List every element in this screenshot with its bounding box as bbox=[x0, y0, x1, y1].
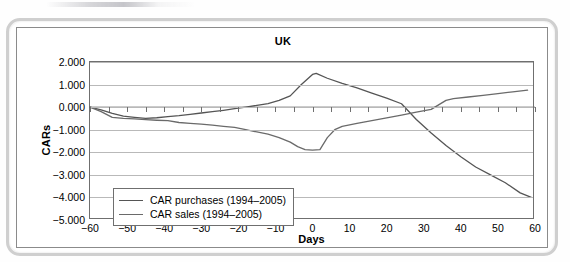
axis-tick bbox=[498, 107, 499, 112]
axis-tick bbox=[294, 107, 295, 112]
axis-tick bbox=[350, 107, 351, 112]
axis-tick bbox=[275, 107, 276, 112]
axis-tick bbox=[516, 107, 517, 112]
x-axis-title: Days bbox=[89, 233, 534, 245]
axis-tick bbox=[146, 107, 147, 112]
gridline bbox=[90, 107, 533, 108]
chart-title: UK bbox=[17, 35, 549, 47]
axis-tick bbox=[164, 107, 165, 112]
x-tick-label: 30 bbox=[418, 222, 430, 234]
axis-tick bbox=[535, 107, 536, 112]
axis-tick bbox=[183, 107, 184, 112]
x-tick-label: 40 bbox=[455, 222, 467, 234]
axis-tick bbox=[238, 107, 239, 112]
chart-legend: CAR purchases (1994–2005) CAR sales (199… bbox=[113, 188, 294, 226]
series-line-car-sales bbox=[90, 90, 528, 150]
axis-tick bbox=[201, 107, 202, 112]
y-tick-label: −3.000 bbox=[53, 169, 85, 181]
y-tick-label: −1.000 bbox=[53, 124, 85, 136]
y-axis-title: CARs bbox=[40, 125, 52, 156]
axis-tick bbox=[405, 107, 406, 112]
y-tick-label: −4.000 bbox=[53, 191, 85, 203]
axis-tick bbox=[442, 107, 443, 112]
x-tick-label: 60 bbox=[529, 222, 541, 234]
x-tick-label: 50 bbox=[492, 222, 504, 234]
gridline bbox=[90, 175, 533, 176]
legend-item: CAR purchases (1994–2005) bbox=[119, 193, 286, 207]
gridline bbox=[90, 152, 533, 153]
y-tick-label: 0.000 bbox=[59, 101, 85, 113]
axis-tick bbox=[220, 107, 221, 112]
x-tick-label: 10 bbox=[344, 222, 356, 234]
axis-tick bbox=[109, 107, 110, 112]
legend-swatch-sales bbox=[119, 214, 143, 215]
axis-tick bbox=[479, 107, 480, 112]
legend-label-purchases: CAR purchases (1994–2005) bbox=[150, 194, 286, 206]
axis-tick bbox=[461, 107, 462, 112]
scan-artifact bbox=[46, 2, 196, 7]
axis-tick bbox=[90, 107, 91, 112]
axis-tick bbox=[313, 107, 314, 112]
x-tick-label: −60 bbox=[81, 222, 99, 234]
series-line-car-purchases bbox=[90, 73, 531, 197]
axis-tick bbox=[257, 107, 258, 112]
legend-swatch-purchases bbox=[119, 200, 143, 201]
x-tick-label: 20 bbox=[381, 222, 393, 234]
legend-label-sales: CAR sales (1994–2005) bbox=[150, 208, 262, 220]
axis-tick bbox=[331, 107, 332, 112]
y-tick-label: 1.000 bbox=[59, 79, 85, 91]
gridline bbox=[90, 85, 533, 86]
axis-tick bbox=[127, 107, 128, 112]
axis-tick bbox=[368, 107, 369, 112]
y-tick-label: −2.000 bbox=[53, 146, 85, 158]
y-tick-label: 2.000 bbox=[59, 56, 85, 68]
gridline bbox=[90, 130, 533, 131]
chart-container: UK CARs Days 2.0001.0000.000−1.000−2.000… bbox=[16, 27, 548, 248]
legend-item: CAR sales (1994–2005) bbox=[119, 207, 286, 221]
axis-tick bbox=[424, 107, 425, 112]
figure-page: UK CARs Days 2.0001.0000.000−1.000−2.000… bbox=[0, 0, 570, 262]
axis-tick bbox=[387, 107, 388, 112]
gridline bbox=[90, 62, 533, 63]
x-tick-label: 0 bbox=[310, 222, 316, 234]
